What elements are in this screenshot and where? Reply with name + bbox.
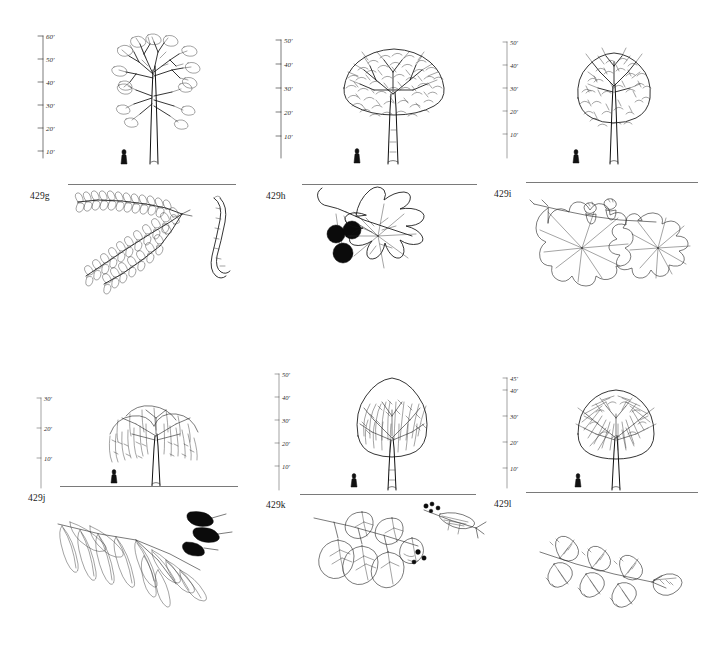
specimen-panel-429k: 50' 40' 30' 20' 10'	[262, 366, 477, 506]
fruit-ball-cluster	[327, 214, 361, 263]
scale-tick-label: 20'	[282, 440, 291, 447]
human-scale-figure	[575, 474, 581, 487]
specimen-plate: 30' 20' 10'	[24, 388, 239, 503]
scale-tick-label: 40'	[46, 79, 55, 87]
scale-tick-label: 40'	[282, 394, 291, 401]
leaf-detail-429l	[520, 530, 695, 620]
plate-page: 60' 50' 40' 30' 20' 10'	[0, 0, 706, 662]
catkin-cluster	[182, 512, 232, 556]
specimen-caption-429h: 429h	[266, 191, 286, 201]
human-scale-figure	[354, 149, 360, 164]
specimen-panel-429l: 45' 40' 30' 20' 10'	[490, 370, 700, 505]
scale-tick-label: 40'	[510, 387, 519, 394]
specimen-caption-429j: 429j	[28, 493, 46, 503]
scale-tick-label: 50'	[282, 371, 291, 378]
height-scale-429l: 45' 40' 30' 20' 10'	[490, 370, 536, 505]
specimen-plate: 50' 40' 30' 20' 10'	[262, 28, 477, 193]
leaf-detail-429g	[42, 186, 247, 291]
scale-tick-label: 30'	[509, 413, 519, 420]
human-scale-figure	[351, 474, 357, 487]
height-scale-429k: 50' 40' 30' 20' 10'	[262, 366, 308, 506]
specimen-caption-429k: 429k	[266, 500, 286, 510]
leaf-detail-429h	[292, 184, 487, 284]
tree-silhouette-429i	[538, 36, 693, 168]
scale-tick-label: 50'	[284, 37, 293, 45]
tree-silhouette-429j	[74, 390, 234, 490]
human-scale-figure	[573, 150, 579, 163]
acorn-pair	[584, 199, 616, 224]
scale-tick-label: 20'	[44, 425, 53, 432]
specimen-caption-429i: 429i	[494, 189, 512, 199]
scale-tick-label: 10'	[46, 148, 55, 156]
ground-line	[526, 492, 698, 493]
scale-tick-label: 40'	[510, 62, 519, 69]
tree-silhouette-429g	[84, 34, 234, 166]
scale-tick-label: 20'	[284, 109, 293, 117]
specimen-plate: 45' 40' 30' 20' 10'	[490, 370, 700, 505]
scale-tick-label: 30'	[45, 102, 55, 110]
specimen-plate: 60' 50' 40' 30' 20' 10'	[24, 28, 239, 193]
scale-tick-label: 30'	[43, 395, 53, 402]
tree-silhouette-429h	[314, 32, 474, 168]
scale-tick-label: 60'	[46, 33, 55, 41]
scale-tick-label: 40'	[284, 61, 293, 69]
leaf-detail-429i	[520, 186, 700, 286]
leaf-detail-429k	[300, 496, 500, 604]
scale-tick-label: 20'	[46, 125, 55, 133]
scale-tick-label: 50'	[510, 39, 519, 46]
human-scale-figure	[121, 149, 127, 164]
specimen-plate: 50' 40' 30' 20' 10'	[490, 28, 700, 193]
scale-tick-label: 30'	[283, 85, 293, 93]
scale-tick-label: 20'	[510, 108, 519, 115]
specimen-caption-429l: 429l	[494, 499, 512, 509]
human-scale-figure	[111, 470, 117, 483]
scale-tick-label: 10'	[510, 465, 519, 472]
flower-cluster	[404, 550, 426, 564]
scale-tick-label: 30'	[281, 417, 291, 424]
tree-silhouette-429l	[540, 376, 695, 494]
ground-line	[300, 494, 476, 495]
specimen-panel-429j: 30' 20' 10'	[24, 388, 239, 503]
ground-line	[60, 486, 238, 487]
tree-silhouette-429k	[318, 370, 468, 494]
scale-tick-label: 30'	[509, 85, 519, 92]
height-scale-429i: 50' 40' 30' 20' 10'	[490, 28, 536, 193]
scale-tick-label: 20'	[510, 439, 519, 446]
scale-tick-label: 10'	[510, 131, 519, 138]
scale-tick-label: 10'	[44, 455, 53, 462]
height-scale-429h: 50' 40' 30' 20' 10'	[262, 28, 308, 193]
scale-tick-label: 10'	[282, 463, 291, 470]
scale-tick-label: 10'	[284, 133, 293, 141]
scale-tick-label: 50'	[46, 56, 55, 64]
specimen-panel-429i: 50' 40' 30' 20' 10'	[490, 28, 700, 193]
specimen-panel-429h: 50' 40' 30' 20' 10'	[262, 28, 477, 193]
specimen-panel-429g: 60' 50' 40' 30' 20' 10'	[24, 28, 239, 193]
ground-line	[526, 182, 698, 183]
height-scale-429g: 60' 50' 40' 30' 20' 10'	[24, 28, 70, 193]
scale-tick-label: 45'	[510, 375, 519, 382]
specimen-plate: 50' 40' 30' 20' 10'	[262, 366, 477, 506]
leaf-detail-429j	[40, 508, 240, 613]
samara-spray	[424, 502, 486, 538]
seed-pod	[211, 196, 230, 278]
ground-line	[68, 184, 236, 185]
